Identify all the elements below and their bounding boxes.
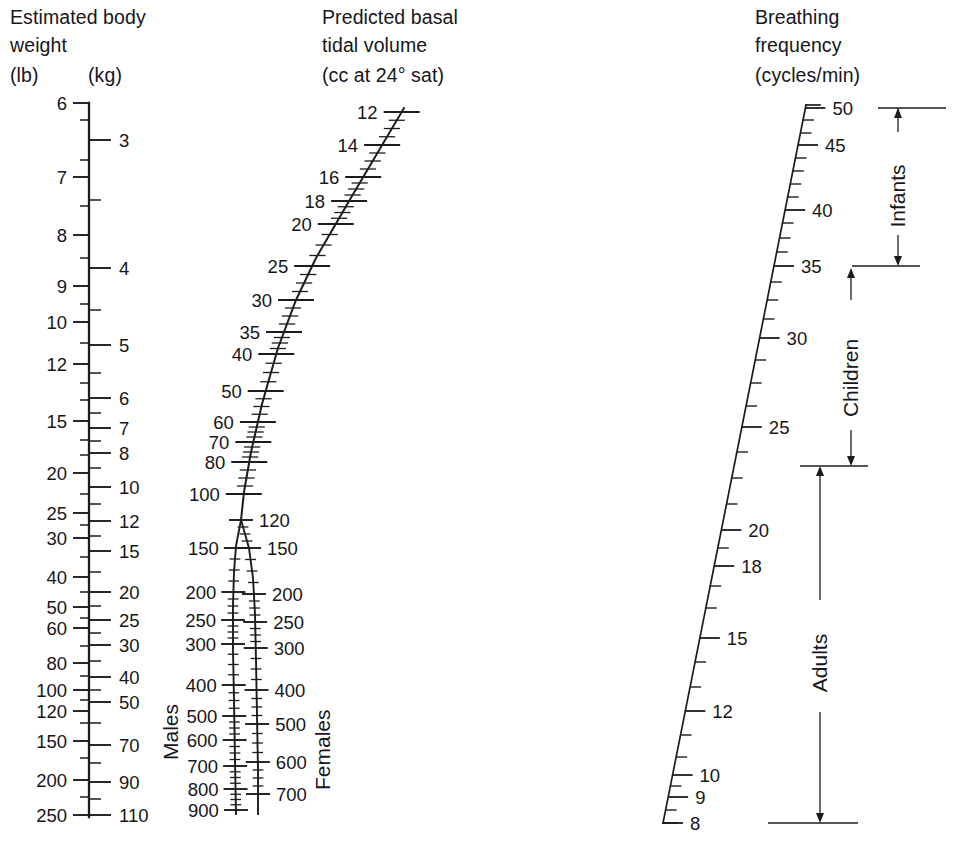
tidal-label: 700 (276, 784, 307, 805)
breathing-label: 15 (727, 628, 748, 649)
age-range-brackets: Infants Children Adults (768, 108, 946, 823)
tidal-label: 25 (268, 256, 289, 277)
arrowhead-children-down (847, 456, 855, 466)
tidal-label: 200 (186, 582, 217, 603)
tidal-label: 20 (291, 214, 312, 235)
range-label-infants: Infants (886, 164, 909, 227)
range-bracket-adults: Adults (768, 466, 858, 823)
arrowhead-adults-down (816, 813, 824, 823)
breathing-label: 9 (695, 787, 705, 808)
tidal-label: 60 (213, 412, 234, 433)
weight-label-kg: 90 (119, 772, 140, 793)
breathing-label: 45 (825, 135, 846, 156)
weight-label-kg: 25 (119, 610, 140, 631)
range-label-adults: Adults (808, 634, 831, 692)
weight-axis: 678910121520253040506080100120150200250 … (36, 93, 148, 826)
weight-left-minor-tick-group (80, 120, 89, 797)
range-label-children: Children (839, 339, 862, 417)
tidal-label: 150 (267, 538, 298, 559)
range-bracket-children: Children (800, 268, 868, 466)
tidal-label: 35 (239, 322, 260, 343)
breathing-label: 18 (741, 556, 762, 577)
branch-label-females: Females (311, 709, 334, 790)
weight-label-lb: 60 (46, 618, 67, 639)
tidal-label: 400 (275, 680, 306, 701)
tidal-title-line2: tidal volume (322, 34, 427, 56)
weight-label-lb: 6 (57, 93, 67, 114)
breathing-label: 30 (787, 328, 808, 349)
tidal-males-label-group: 150200250300400500600700800900 (185, 538, 219, 821)
breathing-label: 50 (832, 98, 853, 119)
weight-label-lb: 50 (46, 597, 67, 618)
tidal-label: 80 (205, 452, 226, 473)
weight-label-lb: 200 (36, 770, 67, 791)
weight-label-kg: 4 (119, 258, 129, 279)
weight-right-label-group: 34567810121520253040507090110 (119, 130, 149, 826)
tidal-label: 70 (209, 432, 230, 453)
tidal-title-line3: (cc at 24° sat) (322, 64, 444, 86)
weight-label-lb: 80 (46, 653, 67, 674)
tidal-label: 500 (186, 706, 217, 727)
weight-title-line2: weight (9, 34, 67, 56)
breathing-label: 10 (700, 765, 721, 786)
arrowhead-infants-up (894, 108, 902, 118)
weight-label-lb: 12 (46, 354, 67, 375)
breathing-label: 40 (812, 200, 833, 221)
weight-label-lb: 120 (36, 701, 67, 722)
weight-label-kg: 3 (119, 130, 129, 151)
tidal-title-line1: Predicted basal (322, 6, 458, 28)
tidal-label: 600 (276, 752, 307, 773)
tidal-label: 600 (187, 730, 218, 751)
breathing-label: 20 (748, 520, 769, 541)
range-bracket-infants: Infants (852, 108, 946, 266)
breathing-label: 8 (690, 813, 700, 834)
tidal-label: 300 (185, 634, 216, 655)
tidal-label: 100 (189, 484, 220, 505)
weight-label-lb: 20 (46, 463, 67, 484)
weight-label-lb: 7 (57, 167, 67, 188)
weight-scale-heading: Estimated body weight (lb) (kg) (9, 6, 146, 86)
breathing-label: 35 (801, 256, 822, 277)
weight-label-lb: 250 (36, 805, 67, 826)
weight-label-lb: 40 (46, 567, 67, 588)
tidal-label: 16 (319, 167, 340, 188)
tidal-label: 400 (186, 675, 217, 696)
nomogram-canvas: Estimated body weight (lb) (kg) Predicte… (0, 0, 956, 868)
tidal-label: 120 (259, 510, 290, 531)
weight-label-lb: 10 (46, 312, 67, 333)
weight-label-lb: 15 (46, 411, 67, 432)
tidal-label: 800 (188, 779, 219, 800)
weight-label-kg: 70 (119, 735, 140, 756)
tidal-label: 300 (274, 638, 305, 659)
tidal-label: 500 (275, 714, 306, 735)
weight-label-lb: 25 (46, 503, 67, 524)
weight-unit-lb: (lb) (10, 64, 39, 86)
breathing-title-line1: Breathing (755, 6, 839, 28)
branch-label-males: Males (159, 704, 182, 760)
tidal-label: 250 (273, 612, 304, 633)
weight-label-kg: 5 (119, 335, 129, 356)
weight-label-lb: 150 (36, 731, 67, 752)
tidal-label: 150 (188, 538, 219, 559)
tidal-label: 18 (305, 191, 326, 212)
weight-label-kg: 40 (119, 667, 140, 688)
arrowhead-infants-down (894, 256, 902, 266)
weight-label-kg: 7 (119, 418, 129, 439)
tidal-volume-axis: 12141618202530354050607080100 1502002503… (159, 102, 420, 821)
tidal-label: 40 (232, 344, 253, 365)
weight-right-minor-tick-group (89, 200, 101, 799)
weight-label-kg: 8 (119, 443, 129, 464)
tidal-main-label-group: 12141618202530354050607080100 (189, 102, 378, 505)
weight-label-lb: 9 (57, 276, 67, 297)
weight-right-tick-group (89, 140, 111, 815)
nomogram-figure: Estimated body weight (lb) (kg) Predicte… (0, 0, 956, 868)
weight-label-kg: 12 (119, 511, 140, 532)
tidal-females-label-group: 120150200250300400500600700 (259, 510, 307, 805)
arrowhead-children-up (847, 268, 855, 278)
weight-label-kg: 30 (119, 635, 140, 656)
weight-label-kg: 20 (119, 582, 140, 603)
breathing-frequency-scale-heading: Breathing frequency (cycles/min) (755, 6, 860, 86)
breathing-label: 12 (712, 701, 733, 722)
tidal-label: 900 (188, 800, 219, 821)
weight-label-lb: 8 (57, 225, 67, 246)
